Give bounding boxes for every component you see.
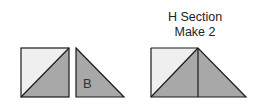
half-square-triangle-unit bbox=[21, 48, 69, 97]
triangle-b: B bbox=[76, 48, 124, 97]
quilt-diagram: B bbox=[0, 0, 256, 111]
h-section-assembled bbox=[151, 48, 246, 97]
triangle-b-label: B bbox=[83, 76, 92, 91]
